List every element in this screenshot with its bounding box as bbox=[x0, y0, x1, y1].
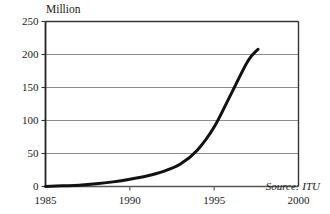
x-tick-label-1985: 1985 bbox=[16, 195, 76, 206]
y-tick-label-150: 150 bbox=[22, 82, 39, 93]
x-tick-label-2000: 2000 bbox=[269, 195, 329, 206]
x-tick-label-1990: 1990 bbox=[100, 195, 160, 206]
y-tick-label-50: 50 bbox=[28, 148, 39, 159]
x-tick-label-1995: 1995 bbox=[184, 195, 244, 206]
y-tick-label-250: 250 bbox=[22, 16, 39, 27]
plot-frame bbox=[46, 22, 299, 187]
y-tick-label-100: 100 bbox=[22, 115, 39, 126]
axis-ticks bbox=[42, 22, 215, 191]
data-series bbox=[46, 49, 259, 186]
y-tick-label-200: 200 bbox=[22, 49, 39, 60]
chart-container: Million 050100150200250 1985199019952000… bbox=[0, 0, 330, 214]
y-tick-label-0: 0 bbox=[33, 181, 39, 192]
source-annotation: Source: ITU bbox=[266, 180, 320, 192]
gridlines bbox=[46, 55, 299, 154]
